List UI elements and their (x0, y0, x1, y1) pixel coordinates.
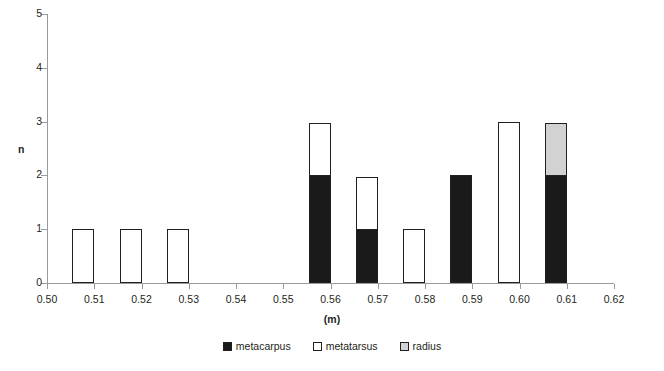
bar-segment-metatarsus (72, 229, 94, 283)
x-tick-label: 0.56 (308, 293, 354, 306)
x-tick-label: 0.53 (166, 293, 212, 306)
y-tick-label: 2 (36, 168, 42, 181)
bar-segment-metatarsus (309, 123, 331, 177)
legend-item-radius: radius (400, 340, 442, 353)
x-tick-mark (425, 284, 426, 289)
histogram-chart: n (m) 012345 0.500.510.520.530.540.550.5… (0, 0, 664, 371)
y-tick-label: 0 (36, 276, 42, 289)
chart-legend: metacarpusmetatarsusradius (0, 340, 664, 353)
x-tick-mark (472, 284, 473, 289)
bar-stack (403, 229, 425, 283)
y-axis-title: n (18, 143, 24, 156)
legend-item-metacarpus: metacarpus (223, 340, 291, 353)
bar-stack (450, 175, 472, 283)
bar-segment-metatarsus (356, 177, 378, 231)
x-tick-mark (331, 284, 332, 289)
bar-segment-metatarsus (120, 229, 142, 283)
y-tick-label: 3 (36, 115, 42, 128)
y-tick-label: 4 (36, 61, 42, 74)
x-tick-label: 0.54 (213, 293, 259, 306)
legend-swatch-metacarpus (223, 342, 232, 351)
x-tick-label: 0.57 (355, 293, 401, 306)
x-tick-mark (283, 284, 284, 289)
bar-segment-metatarsus (498, 122, 520, 283)
x-tick-label: 0.58 (402, 293, 448, 306)
x-tick-mark (614, 284, 615, 289)
legend-swatch-radius (400, 342, 409, 351)
x-tick-mark (236, 284, 237, 289)
x-tick-mark (189, 284, 190, 289)
x-tick-label: 0.52 (119, 293, 165, 306)
x-tick-label: 0.55 (260, 293, 306, 306)
bar-segment-metacarpus (450, 175, 472, 283)
bar-stack (167, 229, 189, 283)
bar-segment-metatarsus (167, 229, 189, 283)
x-tick-label: 0.61 (544, 293, 590, 306)
bar-segment-metacarpus (356, 229, 378, 283)
legend-label: radius (413, 340, 442, 353)
x-tick-mark (47, 284, 48, 289)
x-tick-label: 0.50 (24, 293, 70, 306)
x-tick-mark (567, 284, 568, 289)
legend-label: metacarpus (236, 340, 291, 353)
bar-stack (498, 122, 520, 283)
bar-segment-radius (545, 123, 567, 177)
bar-segment-metacarpus (309, 175, 331, 283)
bar-segment-metatarsus (403, 229, 425, 283)
x-tick-mark (94, 284, 95, 289)
x-tick-mark (378, 284, 379, 289)
bar-stack (120, 229, 142, 283)
y-tick-label: 5 (36, 7, 42, 20)
y-tick-label: 1 (36, 222, 42, 235)
legend-swatch-metatarsus (313, 342, 322, 351)
bar-stack (545, 123, 567, 283)
plot-area (47, 14, 614, 283)
legend-item-metatarsus: metatarsus (313, 340, 378, 353)
x-tick-label: 0.62 (591, 293, 637, 306)
bar-segment-metacarpus (545, 175, 567, 283)
x-tick-label: 0.59 (449, 293, 495, 306)
x-tick-mark (520, 284, 521, 289)
x-tick-label: 0.60 (497, 293, 543, 306)
bar-stack (356, 177, 378, 283)
bar-stack (72, 229, 94, 283)
legend-label: metatarsus (326, 340, 378, 353)
bar-stack (309, 123, 331, 283)
x-tick-label: 0.51 (71, 293, 117, 306)
x-tick-mark (142, 284, 143, 289)
x-axis-title: (m) (0, 313, 664, 326)
